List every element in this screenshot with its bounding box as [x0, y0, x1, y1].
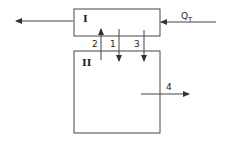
- box-II: II: [74, 51, 160, 133]
- flow-diagram: I II QT 2 1 3 4: [0, 0, 227, 142]
- flow-1-arrow: 1: [110, 29, 119, 61]
- flow-3-label: 3: [134, 39, 140, 49]
- flow-2-arrow: 2: [92, 29, 101, 60]
- flow-3-arrow: 3: [134, 30, 144, 61]
- box-I-label: I: [83, 13, 88, 24]
- box-II-label: II: [82, 57, 92, 68]
- flow-2-label: 2: [92, 39, 98, 49]
- flow-QT-arrow: QT: [161, 11, 216, 24]
- flow-4-label: 4: [166, 82, 172, 92]
- box-I: I: [74, 9, 160, 36]
- flow-4-arrow: 4: [141, 82, 189, 94]
- flow-1-label: 1: [110, 39, 116, 49]
